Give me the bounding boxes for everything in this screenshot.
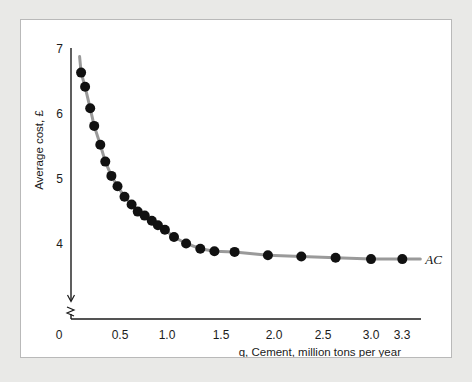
data-point: [230, 247, 240, 257]
figure-root: 7 6 5 4 0 0.5 1.0 1.5 2.0 2.5 3.0 3.3 Av…: [0, 0, 472, 382]
x-axis-title: q, Cement, million tons per year: [239, 346, 402, 357]
x-tick-label-3-0: 3.0: [363, 328, 380, 342]
data-point: [397, 254, 407, 264]
chart-panel: 7 6 5 4 0 0.5 1.0 1.5 2.0 2.5 3.0 3.3 Av…: [20, 19, 452, 358]
x-tick-label-2-5: 2.5: [315, 328, 332, 342]
data-point: [85, 103, 95, 113]
data-point: [100, 157, 110, 167]
data-point: [296, 252, 306, 262]
x-axis-tick-labels: 0 0.5 1.0 1.5 2.0 2.5 3.0 3.3: [56, 328, 411, 342]
data-point: [80, 82, 90, 92]
data-point: [106, 171, 116, 181]
data-point: [160, 225, 170, 235]
x-tick-label-0-5: 0.5: [112, 328, 129, 342]
y-tick-label-7: 7: [56, 42, 63, 56]
data-point: [89, 121, 99, 131]
series-label-ac: AC: [424, 252, 442, 267]
y-axis-title: Average cost, £: [33, 110, 45, 190]
data-point: [120, 192, 130, 202]
data-point: [366, 254, 376, 264]
data-point: [331, 253, 341, 263]
x-tick-label-0: 0: [56, 328, 63, 342]
data-point: [195, 244, 205, 254]
data-point: [76, 68, 86, 78]
y-tick-label-4: 4: [56, 237, 63, 251]
y-tick-label-6: 6: [56, 107, 63, 121]
x-tick-label-1-0: 1.0: [159, 328, 176, 342]
average-cost-curve: [80, 57, 403, 260]
data-point: [263, 250, 273, 260]
x-tick-label-1-5: 1.5: [213, 328, 230, 342]
y-axis-tick-labels: 7 6 5 4: [56, 42, 63, 251]
y-tick-label-5: 5: [56, 172, 63, 186]
data-point: [95, 140, 105, 150]
data-point: [209, 246, 219, 256]
data-point: [113, 181, 123, 191]
x-tick-label-3-3: 3.3: [394, 328, 411, 342]
data-point: [181, 239, 191, 249]
average-cost-chart: 7 6 5 4 0 0.5 1.0 1.5 2.0 2.5 3.0 3.3 Av…: [21, 20, 451, 357]
x-tick-label-2-0: 2.0: [266, 328, 283, 342]
data-point: [169, 232, 179, 242]
data-point-group: [76, 68, 407, 265]
